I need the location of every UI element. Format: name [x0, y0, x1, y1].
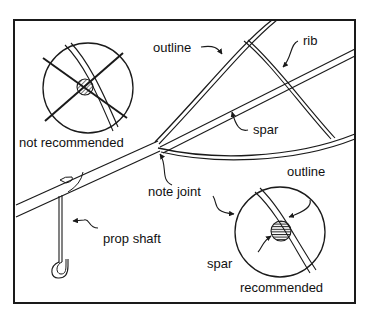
not-recommended-detail — [43, 43, 133, 133]
outline-leader — [201, 46, 222, 54]
fuselage-stick — [16, 141, 160, 217]
label-spar-detail: spar — [207, 256, 233, 271]
recommended-detail — [235, 187, 325, 277]
label-outline-detail: outline — [287, 164, 325, 179]
note-joint-leader — [160, 154, 172, 185]
rib-leader — [283, 41, 298, 67]
wing-joint-diagram: outline rib spar not recommended note jo… — [0, 0, 365, 314]
diagram-frame — [14, 20, 355, 303]
label-spar: spar — [253, 122, 279, 137]
spar-leader — [232, 112, 248, 130]
label-rib: rib — [303, 33, 317, 48]
label-outline: outline — [153, 40, 191, 55]
outline-detail-leader — [289, 200, 310, 217]
label-recommended: recommended — [240, 280, 323, 295]
wing-spar — [160, 49, 355, 153]
spar-detail-leader — [258, 236, 271, 252]
joint-detail-leader — [213, 196, 234, 214]
label-prop-shaft: prop shaft — [103, 231, 161, 246]
label-note-joint: note joint — [148, 184, 201, 199]
spar-cross-section-icon — [271, 221, 291, 241]
label-not-recommended: not recommended — [19, 135, 124, 150]
prop-shaft-leader — [73, 220, 98, 228]
